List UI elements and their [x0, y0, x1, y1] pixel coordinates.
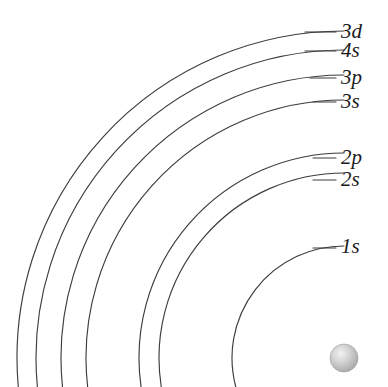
orbital-label-4s: 4s — [341, 40, 360, 61]
orbital-label-2p: 2p — [341, 147, 362, 168]
orbital-diagram-figure: 3d4s3p3s2p2s1s — [0, 0, 388, 387]
orbital-label-3s: 3s — [341, 91, 360, 112]
shell-arc-3d — [17, 31, 344, 387]
shell-arc-2s — [159, 173, 344, 387]
shell-arc-3s — [86, 100, 344, 387]
shell-arc-3p — [61, 75, 344, 387]
orbital-label-3p: 3p — [341, 67, 362, 88]
shell-arc-4s — [36, 50, 344, 387]
shell-arc-2p — [139, 153, 344, 387]
orbital-canvas — [0, 0, 388, 387]
shell-arc-1s — [232, 246, 344, 387]
orbital-label-1s: 1s — [341, 236, 360, 257]
nucleus-sphere — [330, 344, 358, 372]
orbital-label-2s: 2s — [341, 169, 360, 190]
leader-line-group — [305, 32, 336, 248]
shell-arc-group — [17, 31, 344, 387]
